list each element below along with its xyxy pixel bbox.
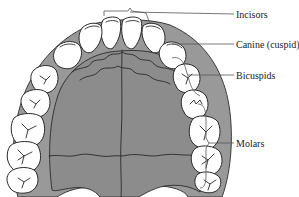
label-molars: Molars bbox=[236, 138, 264, 149]
molar-right-2 bbox=[191, 146, 222, 175]
label-bicuspids: Bicuspids bbox=[236, 70, 276, 81]
bicuspid-right-1 bbox=[173, 64, 200, 93]
molar-left-3 bbox=[7, 168, 38, 194]
label-canine: Canine (cuspid) bbox=[236, 39, 299, 51]
bicuspid-right-2 bbox=[181, 90, 208, 119]
dental-arch-diagram: Incisors Canine (cuspid) Bicuspids Molar… bbox=[0, 0, 299, 197]
label-incisors: Incisors bbox=[236, 9, 268, 20]
molar-right-1 bbox=[189, 116, 220, 149]
